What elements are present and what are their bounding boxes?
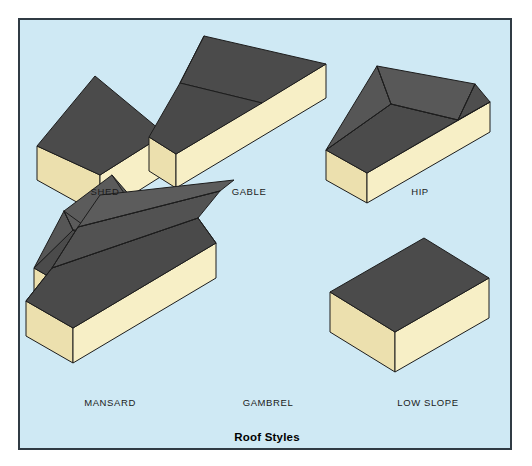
roof-styles-diagram: SHED GABLE HIP MANSARD GAMBREL LOW SLOPE…: [20, 20, 514, 452]
roof-model-gable: [149, 36, 326, 188]
roof-label-gable: GABLE: [232, 186, 267, 197]
roof-styles-figure: SHED GABLE HIP MANSARD GAMBREL LOW SLOPE…: [0, 0, 532, 466]
roof-label-shed: SHED: [91, 186, 120, 197]
roof-model-low-slope: [330, 238, 489, 372]
roof-label-gambrel: GAMBREL: [243, 397, 294, 408]
roof-label-mansard: MANSARD: [84, 397, 136, 408]
roof-model-gambrel: [26, 180, 234, 363]
roof-label-hip: HIP: [411, 186, 429, 197]
figure-caption: Roof Styles: [234, 431, 299, 443]
roof-model-hip: [326, 66, 490, 203]
roof-label-low-slope: LOW SLOPE: [397, 397, 458, 408]
figure-frame: SHED GABLE HIP MANSARD GAMBREL LOW SLOPE…: [18, 18, 512, 450]
